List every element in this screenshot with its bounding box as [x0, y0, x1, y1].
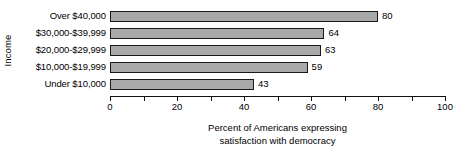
x-tick-label-60: 60: [306, 101, 317, 113]
bar-20000-29999: [110, 45, 321, 56]
bar-row: Under $10,000 43: [0, 76, 454, 92]
x-axis-title: Percent of Americans expressing satisfac…: [110, 121, 445, 147]
bar-row: $10,000-$19,999 59: [0, 59, 454, 75]
x-tick-label-100: 100: [437, 101, 453, 113]
x-tick-label-80: 80: [373, 101, 384, 113]
x-tick-label-20: 20: [172, 101, 183, 113]
bar-value-label: 43: [258, 76, 269, 92]
category-label: $20,000-$29,999: [0, 42, 106, 58]
bar-row: Over $40,000 80: [0, 8, 454, 24]
x-tick-label-40: 40: [239, 101, 250, 113]
x-tick-70: [345, 96, 346, 101]
bar-row: $20,000-$29,999 63: [0, 42, 454, 58]
plot-area: Over $40,000 80 $30,000-$39,999 64 $20,0…: [0, 0, 454, 100]
bar-value-label: 64: [328, 25, 339, 41]
x-tick-10: [144, 96, 145, 101]
category-label: $30,000-$39,999: [0, 25, 106, 41]
bar-value-label: 80: [382, 8, 393, 24]
category-label: Over $40,000: [0, 8, 106, 24]
x-tick-90: [412, 96, 413, 101]
bar-under-10000: [110, 79, 254, 90]
bar-value-label: 63: [325, 42, 336, 58]
category-label: $10,000-$19,999: [0, 59, 106, 75]
x-tick-label-0: 0: [107, 101, 112, 113]
bar-over-40000: [110, 11, 378, 22]
category-label: Under $10,000: [0, 76, 106, 92]
x-tick-30: [211, 96, 212, 101]
bar-value-label: 59: [312, 59, 323, 75]
bar-10000-19999: [110, 62, 308, 73]
x-axis-title-line1: Percent of Americans expressing: [110, 121, 445, 134]
bar-row: $30,000-$39,999 64: [0, 25, 454, 41]
x-tick-50: [278, 96, 279, 101]
x-axis-title-line2: satisfaction with democracy: [110, 134, 445, 147]
bar-chart: Income Over $40,000 80 $30,000-$39,999 6…: [0, 0, 454, 156]
bar-30000-39999: [110, 28, 324, 39]
